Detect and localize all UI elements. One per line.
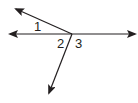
angle-label-2: 2 [57, 36, 64, 51]
angle-diagram: 1 2 3 [0, 0, 138, 103]
angle-label-3: 3 [75, 36, 82, 51]
upper-left-ray [16, 9, 72, 34]
angle-label-1: 1 [34, 19, 41, 34]
